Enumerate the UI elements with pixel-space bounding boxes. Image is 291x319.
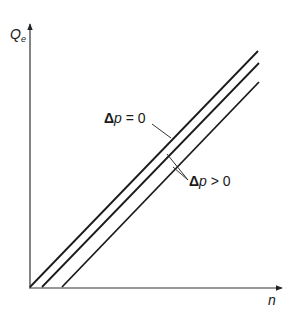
- label-delta-p-zero: Δp = 0: [104, 110, 146, 126]
- diagram-canvas: [0, 0, 291, 319]
- y-axis-label: Qe: [10, 26, 26, 42]
- leader-delta-p-positive-b: [173, 167, 188, 180]
- leader-delta-p-zero: [152, 124, 171, 138]
- y-axis-label-main: Q: [10, 26, 21, 42]
- line-delta-p-zero: [30, 51, 258, 287]
- label-delta-p-positive: Δp > 0: [189, 173, 231, 189]
- y-axis-label-sub: e: [21, 34, 26, 44]
- delta-symbol: Δ: [104, 110, 114, 126]
- x-axis-label: n: [268, 292, 276, 308]
- delta-symbol: Δ: [189, 173, 199, 189]
